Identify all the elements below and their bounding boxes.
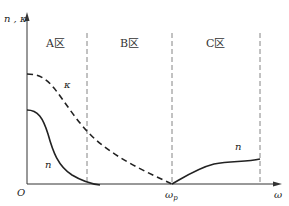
n-curve-region-a-label: n <box>45 160 51 170</box>
plasma-frequency-label: ωp <box>165 190 178 202</box>
region-b-label: B区 <box>120 38 139 49</box>
region-c-label: C区 <box>206 38 225 49</box>
optical-constants-diagram: n , κ A区 B区 C区 κ n n O ωp ω <box>0 0 289 206</box>
n-curve-region-c <box>172 159 260 184</box>
n-curve-region-c-label: n <box>235 142 241 152</box>
diagram-canvas <box>0 0 289 206</box>
x-axis-arrow-icon <box>273 182 282 187</box>
plasma-frequency-main: ω <box>165 189 173 200</box>
region-a-label: A区 <box>46 38 65 49</box>
origin-label: O <box>17 188 25 198</box>
plasma-frequency-sub: p <box>173 194 177 202</box>
n-curve-region-a <box>27 110 100 185</box>
x-axis-label: ω <box>274 190 282 200</box>
y-axis-label: n , κ <box>4 14 27 24</box>
kappa-curve-label: κ <box>64 80 71 90</box>
